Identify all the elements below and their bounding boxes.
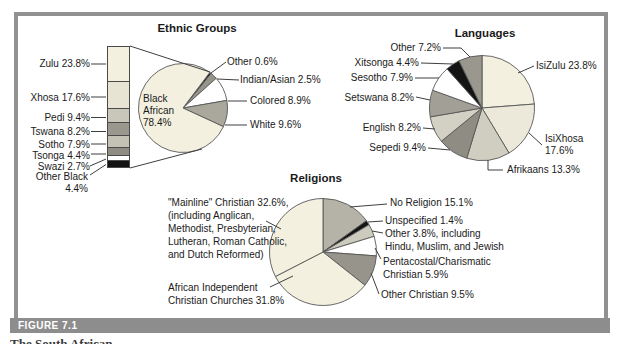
- lang-label-xitsonga: Xitsonga 4.4%: [330, 57, 419, 69]
- religion-label-african-independent: African Independent Christian Churches 3…: [168, 281, 284, 307]
- lang-label-afrikaans: Afrikaans 13.3%: [507, 164, 580, 176]
- ethnic-label-other: Other 0.6%: [227, 56, 278, 68]
- languages-title: Languages: [430, 27, 540, 39]
- lang-label-isizulu: IsiZulu 23.8%: [536, 60, 597, 72]
- religion-label-no-religion: No Religion 15.1%: [390, 197, 473, 209]
- bar-segment-pedi: [108, 108, 129, 123]
- lang-label-sesotho: Sesotho 7.9%: [325, 72, 413, 84]
- lang-label-isixhosa: IsiXhosa 17.6%: [545, 133, 583, 156]
- lang-label-sepedi: Sepedi 9.4%: [335, 142, 426, 154]
- ethnic-pie-center-label: Black African 78.4%: [143, 93, 174, 129]
- ethnic-label-indian-asian: Indian/Asian 2.5%: [240, 74, 321, 86]
- ethnic-groups-title: Ethnic Groups: [140, 22, 254, 34]
- bar-label-zulu: Zulu 23.8%: [18, 58, 90, 70]
- bar-segment-sotho: [108, 135, 129, 147]
- bar-label-tswana: Tswana 8.2%: [10, 126, 90, 138]
- bar-label-pedi: Pedi 9.4%: [18, 112, 90, 124]
- religion-label-other: Other 3.8%, including Hindu, Muslim, and…: [385, 227, 504, 253]
- bar-label-other-black: Other Black 4.4%: [26, 171, 88, 194]
- languages-pie-chart: [428, 54, 536, 162]
- bar-segment-zulu: [108, 47, 129, 81]
- lang-label-setswana: Setswana 8.2%: [320, 92, 414, 104]
- ethnic-label-white: White 9.6%: [250, 119, 301, 131]
- bar-label-xhosa: Xhosa 17.6%: [10, 92, 90, 104]
- religion-label-unspecified: Unspecified 1.4%: [385, 215, 463, 227]
- ethnic-label-colored: Colored 8.9%: [250, 95, 311, 107]
- pie-slice-isizulu: [482, 55, 534, 108]
- figure-label: FIGURE 7.1: [18, 320, 77, 331]
- bar-segment-tsonga: [108, 147, 129, 154]
- bar-segment-other-black: [108, 160, 129, 167]
- bar-label-sotho: Sotho 7.9%: [18, 139, 90, 151]
- religion-label-pentacostal: Pentacostal/Charismatic Christian 5.9%: [383, 255, 491, 281]
- bar-label-tsonga: Tsonga 4.4%: [10, 150, 90, 162]
- figure-label-bar: FIGURE 7.1: [10, 318, 610, 333]
- bar-segment-xhosa: [108, 81, 129, 107]
- lang-label-english: English 8.2%: [330, 122, 421, 134]
- figure-7-1: Ethnic Groups Zulu 23.8% Xhosa 17.6% Ped…: [0, 0, 631, 344]
- religion-label-other-christian: Other Christian 9.5%: [381, 289, 474, 301]
- religions-title: Religions: [268, 172, 364, 184]
- bar-segment-tswana: [108, 122, 129, 135]
- religion-label-mainline: "Mainline" Christian 32.6%, (including A…: [168, 196, 289, 261]
- lang-label-other: Other 7.2%: [350, 42, 441, 54]
- ethnic-stacked-bar: [107, 46, 130, 168]
- caption-fragment: The South African: [10, 336, 310, 344]
